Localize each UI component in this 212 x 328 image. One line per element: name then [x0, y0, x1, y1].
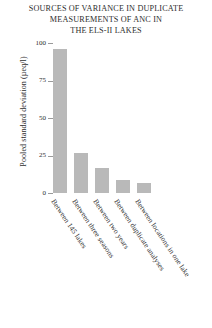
bar-series: [53, 43, 173, 193]
y-axis-title: Pooled standard deviation (µeq/l): [19, 37, 28, 187]
y-tick-label-25: 25: [26, 152, 46, 159]
y-tick-label-50: 50: [26, 115, 46, 122]
y-tick-label-0: 0: [26, 190, 46, 197]
y-tick-mark-0: [48, 193, 53, 194]
bar-chart-plot: Pooled standard deviation (µeq/l) 100 75…: [0, 0, 212, 328]
y-tick-label-75: 75: [26, 77, 46, 84]
bar-between-three-seasons[interactable]: [74, 153, 88, 194]
bar-between-locations-in-one-lake[interactable]: [137, 183, 151, 194]
bar-between-two-years[interactable]: [95, 168, 109, 194]
bar-between-145-lakes[interactable]: [53, 49, 67, 193]
y-tick-label-100: 100: [26, 40, 46, 47]
bar-between-duplicate-analyses[interactable]: [116, 180, 130, 194]
